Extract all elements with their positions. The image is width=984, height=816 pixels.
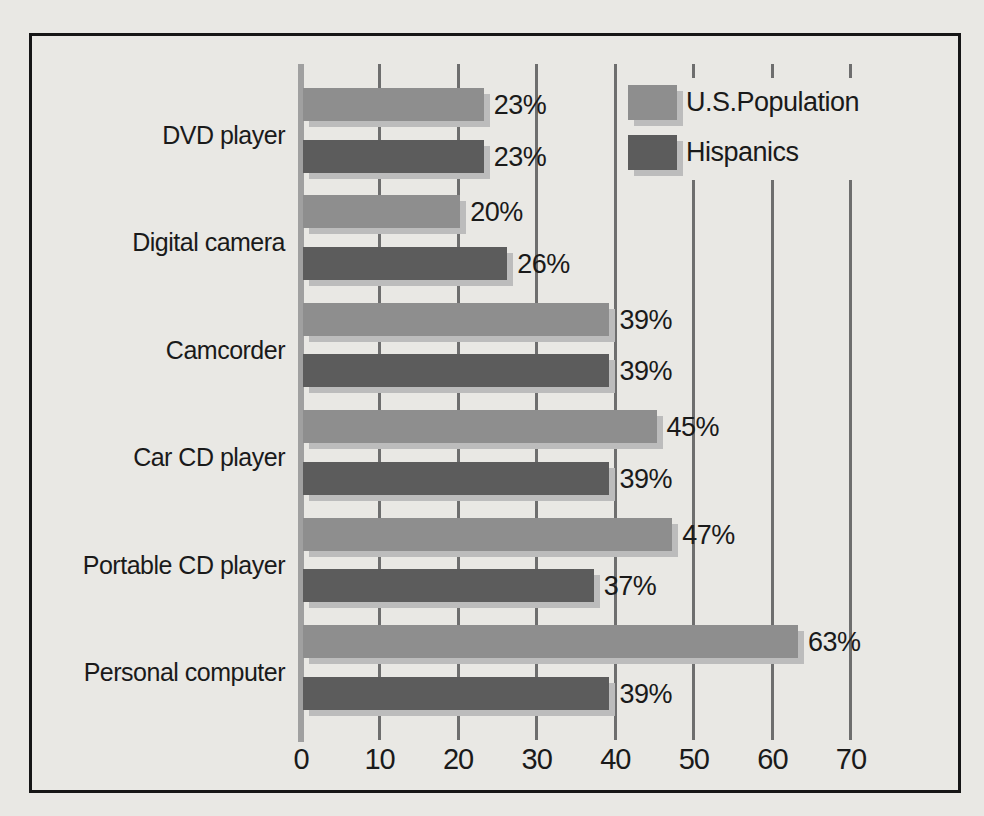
legend-swatch-us-population (628, 85, 677, 120)
bar-hispanics (303, 140, 484, 173)
legend-item-us-population: U.S.Population (628, 85, 880, 120)
bar-hispanics (303, 354, 609, 387)
value-label: 37% (604, 569, 657, 602)
x-tick-label: 30 (502, 743, 572, 775)
bar-us-population (303, 303, 609, 336)
legend-swatch-hispanics (628, 135, 677, 170)
category-label: Personal computer (35, 657, 285, 687)
scanned-chart-figure: 010203040506070DVD player23%23%Digital c… (0, 0, 984, 816)
x-tick-label: 60 (737, 743, 807, 775)
legend-item-hispanics: Hispanics (628, 135, 880, 170)
category-label: Digital camera (35, 227, 285, 257)
bar-us-population (303, 195, 460, 228)
value-label: 26% (517, 247, 570, 280)
bar-hispanics (303, 462, 609, 495)
value-label: 45% (667, 410, 720, 443)
category-label: Car CD player (35, 442, 285, 472)
legend-label-us-population: U.S.Population (686, 85, 859, 120)
value-label: 47% (682, 518, 735, 551)
bar-us-population (303, 410, 657, 443)
value-label: 20% (470, 195, 523, 228)
value-label: 39% (619, 303, 672, 336)
category-label: Portable CD player (35, 550, 285, 580)
value-label: 39% (619, 677, 672, 710)
bar-us-population (303, 518, 672, 551)
bar-hispanics (303, 247, 507, 280)
x-tick-label: 20 (423, 743, 493, 775)
x-tick-label: 10 (345, 743, 415, 775)
value-label: 39% (619, 462, 672, 495)
x-tick-label: 40 (580, 743, 650, 775)
value-label: 23% (494, 88, 547, 121)
category-label: DVD player (35, 120, 285, 150)
value-label: 39% (619, 354, 672, 387)
value-label: 63% (808, 625, 861, 658)
category-label: Camcorder (35, 335, 285, 365)
legend-label-hispanics: Hispanics (686, 135, 799, 170)
x-tick-label: 70 (816, 743, 886, 775)
bar-hispanics (303, 677, 609, 710)
bar-us-population (303, 625, 798, 658)
x-tick-label: 0 (266, 743, 336, 775)
bar-hispanics (303, 569, 594, 602)
bar-us-population (303, 88, 484, 121)
legend: U.S.Population Hispanics (622, 78, 880, 180)
x-tick-label: 50 (659, 743, 729, 775)
value-label: 23% (494, 140, 547, 173)
